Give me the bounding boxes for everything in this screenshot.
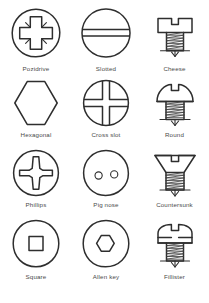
diagram-cell-square: Square	[0, 218, 72, 296]
diagram-caption: Countersunk	[156, 201, 193, 209]
diagram-caption: Slotted	[96, 65, 116, 73]
diagram-caption: Square	[26, 273, 47, 281]
screw-head-types-diagram: Pozidrive Slotted	[0, 0, 209, 303]
round-head-screw-icon	[140, 78, 209, 128]
diagram-caption: Pig nose	[93, 201, 118, 209]
fillister-head-screw-icon	[140, 218, 209, 270]
diagram-caption: Round	[165, 131, 184, 139]
pozidrive-screw-head-icon	[0, 0, 72, 62]
slotted-screw-head-icon	[72, 0, 140, 62]
square-screw-head-icon	[0, 218, 72, 270]
diagram-cell-hexagonal: Hexagonal	[0, 78, 72, 148]
countersunk-head-screw-icon	[140, 148, 209, 198]
diagram-caption: Fillister	[164, 273, 185, 281]
diagram-caption: Cheese	[163, 65, 185, 73]
diagram-cell-round: Round	[140, 78, 209, 148]
hexagonal-screw-head-icon	[0, 78, 72, 128]
cheese-head-screw-icon	[140, 0, 209, 62]
diagram-cell-slotted: Slotted	[72, 0, 140, 78]
diagram-caption: Pozidrive	[23, 65, 50, 73]
diagram-caption: Allen key	[93, 273, 119, 281]
diagram-cell-phillips: Phillips	[0, 148, 72, 218]
diagram-cell-countersunk: Countersunk	[140, 148, 209, 218]
diagram-cell-cheese: Cheese	[140, 0, 209, 78]
diagram-caption: Hexagonal	[21, 131, 52, 139]
diagram-cell-pozidrive: Pozidrive	[0, 0, 72, 78]
diagram-caption: Phillips	[26, 201, 47, 209]
cross-slot-screw-head-icon	[72, 78, 140, 128]
diagram-cell-cross-slot: Cross slot	[72, 78, 140, 148]
allen-key-screw-head-icon	[72, 218, 140, 270]
phillips-screw-head-icon	[0, 148, 72, 198]
screw-icon-grid: Pozidrive Slotted	[0, 0, 209, 303]
diagram-cell-allen-key: Allen key	[72, 218, 140, 296]
diagram-caption: Cross slot	[91, 131, 120, 139]
diagram-cell-pig-nose: Pig nose	[72, 148, 140, 218]
diagram-cell-fillister: Fillister	[140, 218, 209, 296]
pig-nose-screw-head-icon	[72, 148, 140, 198]
